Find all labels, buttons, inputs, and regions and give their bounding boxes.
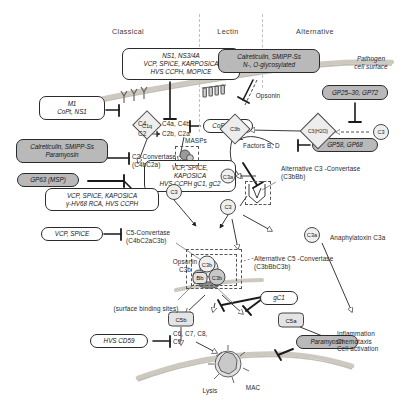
diagram-canvas: Classical Lectin Alternative NS1, NS3/4A… <box>0 0 414 414</box>
node-c3-h2o-label: C3(H2O) <box>306 119 330 143</box>
evasion-box-hvs-cd59[interactable]: HVS CD59 <box>90 334 148 348</box>
node-c3a-alt[interactable]: C3a <box>304 227 320 243</box>
mac-pore-glyph <box>208 345 249 383</box>
membrane-lower <box>138 354 352 382</box>
evasion-box-gp63[interactable]: GP63 (MSP) <box>17 173 79 187</box>
evasion-box-vcp-left[interactable]: VCP, SPICE, KAPOSICA γ-HV68 RCA, HVS CCP… <box>45 188 159 211</box>
evasion-box-gp25-30[interactable]: GP25–30, GP72 <box>322 85 388 100</box>
label-alt-c5-convertase: Alternative C5 -Convertase (C3bBbC3b) <box>254 255 333 270</box>
label-c5-convertase: C5-Convertase (C4bC2aC3b) <box>126 229 170 244</box>
label-pathogen-cell-surface: Pathogen cell surface <box>354 55 388 70</box>
c2-convertase-box <box>175 146 199 166</box>
label-surface-binding-sites: (surface binding sites) <box>114 305 179 313</box>
label-c2: C2 <box>138 130 146 138</box>
node-c3a-mid[interactable]: C3a <box>221 169 236 184</box>
evasion-box-vcp-spice[interactable]: VCP, SPICE <box>41 227 103 241</box>
evasion-box-gc1[interactable]: gC1 <box>260 291 298 305</box>
node-c5b[interactable]: C5b <box>168 312 194 327</box>
label-alt-c3-convertase: Alternative C3 -Convertase (C3bBb) <box>281 165 360 180</box>
label-mac: MAC <box>246 384 261 392</box>
label-opsonin-c3b: Opsonin C3b <box>173 258 198 273</box>
label-anaphylatoxin-c3a: Anaphylatoxin C3a <box>330 234 385 242</box>
header-classical: Classical <box>112 28 144 36</box>
label-c2-convertase: C2-Convertase (C4bC2a) <box>132 153 176 168</box>
node-c3-right[interactable]: C3 <box>373 124 389 140</box>
evasion-box-m1[interactable]: M1 CoPt, NS1 <box>39 96 105 120</box>
header-alternative: Alternative <box>296 28 334 36</box>
label-opsonin-top: Opsonin <box>256 92 281 100</box>
header-lectin: Lectin <box>217 28 238 36</box>
node-c3-left[interactable]: C3 <box>166 184 182 200</box>
label-terminal-components: C6, C7, C8, C9 <box>173 330 208 345</box>
label-factors-bd: Factors B, D <box>243 142 280 150</box>
evasion-box-calreticulin-paramyosin[interactable]: Calreticulin, SMIPP-Ss Paramyosin <box>16 139 108 163</box>
node-c3b-alt-label: C3b <box>225 119 245 139</box>
label-inflammation: Inflammation Chemotaxis Cell activation <box>337 330 378 353</box>
label-c4-products: C4a, C4b <box>162 120 190 128</box>
label-c4: C4 <box>138 120 146 128</box>
node-c5a[interactable]: C5a <box>278 313 304 328</box>
alt-c3-convertase-box <box>245 181 271 205</box>
label-masps: MASPs <box>185 137 207 145</box>
lectin-receptor-icons <box>202 85 226 97</box>
node-c3-mid[interactable]: C3 <box>220 199 236 215</box>
evasion-box-calreticulin-lectin[interactable]: Calreticulin, SMIPP-Ss N-, O-glycosylate… <box>218 49 320 73</box>
label-lysis: Lysis <box>203 387 218 395</box>
